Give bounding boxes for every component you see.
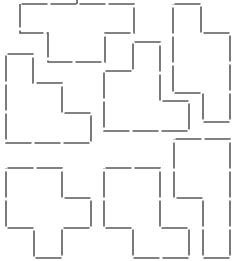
column-piece-right-top [173,4,230,122]
l-piece-middle [104,42,189,131]
piece-bottom-right [174,139,230,258]
polyomino-diagram [0,0,234,261]
cross-piece-bottom-left [6,168,91,258]
piece-bottom-middle [104,168,189,258]
t-piece-top [20,4,134,62]
staircase-piece-left [6,54,91,143]
